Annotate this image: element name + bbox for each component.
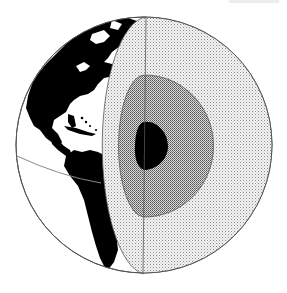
earth-cutaway-diagram	[0, 0, 287, 293]
